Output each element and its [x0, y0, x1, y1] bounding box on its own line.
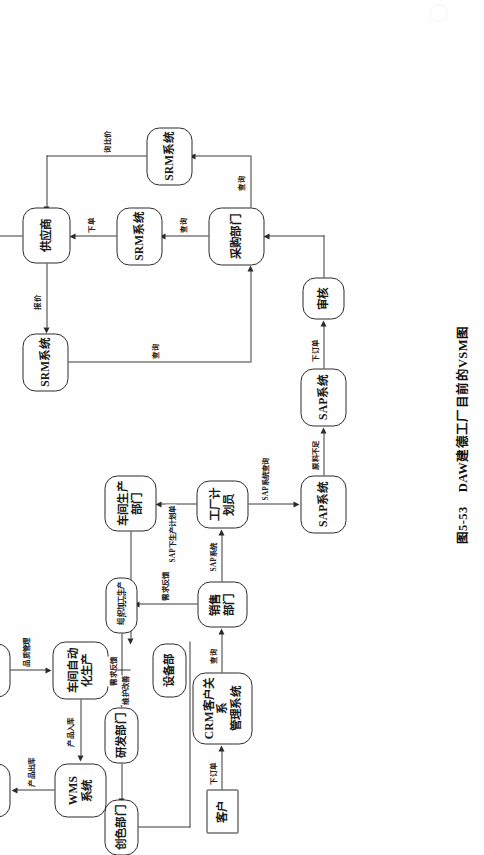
connector: [130, 531, 131, 583]
arrow-icon: [320, 427, 326, 433]
node-workshop-production-dept[interactable]: 车间生产 部门: [104, 475, 156, 531]
connector: [46, 155, 146, 156]
connector: [194, 155, 250, 156]
connector: [221, 749, 222, 789]
node-label: 创色部门: [114, 805, 128, 850]
edge-label-sap-query: SAP系统查询: [258, 456, 269, 501]
connector: [68, 361, 250, 362]
node-label-line1: 车间自动: [66, 648, 80, 693]
node-supplier[interactable]: 供应商: [22, 207, 70, 263]
connector: [10, 669, 46, 670]
arrow-icon: [293, 502, 299, 508]
node-label-line2: 系统: [80, 779, 94, 801]
node-wms-system[interactable]: WMS 系统: [54, 763, 106, 817]
edge-label-place-order-sap: 下订单: [308, 339, 319, 362]
node-workshop-auto-production[interactable]: 车间自动 化生产: [52, 641, 108, 699]
connector: [323, 235, 324, 277]
node-label: 采购部门: [229, 214, 243, 259]
node-label: SAP系统: [316, 482, 330, 527]
connector: [250, 155, 251, 207]
arrow-icon: [77, 755, 83, 761]
figure-caption: 图5-53 DAW建德工厂目前的VSM图: [446, 305, 476, 565]
node-label: 设备部: [162, 653, 176, 687]
edge-label-order-place: 下订单: [206, 762, 217, 785]
connector: [323, 324, 324, 368]
connector: [74, 235, 116, 236]
connector: [16, 789, 54, 790]
connector: [138, 826, 190, 827]
node-label: SRM系统: [132, 212, 146, 261]
connector: [189, 641, 190, 827]
connector: [323, 431, 324, 475]
edge-label-demand-feedback-2: 需求反馈: [106, 656, 117, 686]
arrow-icon: [247, 265, 253, 271]
node-srm-system-query[interactable]: SRM系统: [22, 333, 68, 391]
arrow-icon: [218, 628, 224, 634]
arrow-icon: [11, 788, 17, 794]
node-equipment-dept[interactable]: 设备部: [152, 643, 186, 697]
node-label-line1: 销售: [208, 593, 222, 615]
node-sap-system-order[interactable]: SAP系统: [300, 368, 346, 426]
node-sales-dept[interactable]: 销售 部门: [197, 581, 247, 627]
connector: [250, 270, 251, 362]
node-label-line2: 部门: [222, 593, 236, 615]
node-label: SRM系统: [38, 338, 52, 387]
edge-label-sap-system: SAP系统: [206, 542, 217, 572]
figure-caption-text: 图5-53 DAW建德工厂目前的VSM图: [452, 326, 471, 545]
figure-title: DAW建德工厂目前的VSM图: [456, 326, 470, 493]
node-label-line1: 工厂计: [208, 487, 222, 521]
connector: [221, 632, 222, 672]
edge-label-query-srm-top: 查询: [148, 343, 159, 359]
edge-label-query-crm: 查询: [206, 648, 217, 664]
node-label: SAP系统: [316, 375, 330, 420]
node-srm-system-compare[interactable]: SRM系统: [146, 127, 192, 185]
connector: [0, 235, 22, 236]
node-label-line2: 划员: [222, 493, 236, 515]
node-audit[interactable]: 审核: [302, 277, 344, 319]
edge-label-sap-production-plan: SAP下生产计划单: [165, 504, 176, 563]
connector: [46, 263, 47, 327]
arrow-icon: [127, 638, 133, 644]
node-label-line2: 管理系统: [229, 686, 243, 731]
edge-label-product-inbound: 产品入库: [63, 717, 74, 747]
node-srm-system-order[interactable]: SRM系统: [116, 207, 162, 265]
arrow-icon: [218, 529, 224, 535]
node-purchase-dept[interactable]: 采购部门: [208, 207, 264, 265]
node-sap-system-plan[interactable]: SAP系统: [300, 475, 346, 533]
edge-label-quote: 报价: [30, 294, 41, 310]
node-customer-order[interactable]: 客户: [206, 789, 238, 833]
node-label-line1: 车间生产: [116, 481, 130, 526]
arrow-icon: [45, 668, 51, 674]
edge-label-maintenance: 维护改善: [118, 675, 129, 705]
node-label-line1: WMS: [66, 775, 80, 804]
node-tms-system[interactable]: TMS 系统: [0, 763, 10, 817]
edge-label-query-srm-compare: 查询: [234, 175, 245, 191]
edge-label-query-srm-order: 查询: [176, 217, 187, 233]
node-label: 供应商: [39, 218, 53, 252]
connector: [221, 533, 222, 581]
figure-number: 图5-53: [456, 506, 470, 544]
connector: [164, 235, 208, 236]
edge-label-quality-management: 品质管理: [19, 637, 30, 667]
connector: [248, 503, 294, 504]
node-color-dept[interactable]: 创色部门: [104, 799, 138, 855]
edge-label-compare-price: 询比价: [100, 130, 111, 153]
connector: [268, 235, 324, 236]
connector: [46, 155, 47, 207]
node-crm-system[interactable]: CRM客户关系 管理系统: [192, 672, 252, 744]
node-label: 客户: [215, 800, 229, 822]
node-rd-dept[interactable]: 研发部门: [104, 707, 138, 763]
connector: [80, 699, 81, 755]
node-qc-qa[interactable]: QC/QA: [0, 643, 10, 697]
arrow-icon: [218, 745, 224, 751]
node-label: SRM系统: [162, 132, 176, 181]
edge-label-product-outbound: 产品出库: [24, 757, 35, 787]
node-label-line2: 部门: [130, 492, 144, 514]
node-factory-planner[interactable]: 工厂计 划员: [196, 480, 248, 528]
node-label: 研发部门: [114, 713, 128, 758]
connector: [138, 603, 197, 604]
node-label-line2: 化生产: [80, 653, 94, 687]
